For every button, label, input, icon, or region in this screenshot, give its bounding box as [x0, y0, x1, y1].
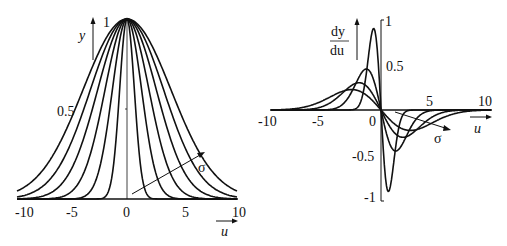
tick-y: -0.5 [352, 149, 374, 164]
y-axis-label: y [77, 28, 86, 43]
y-axis-label-denominator: du [330, 43, 344, 58]
tick-x: 10 [478, 94, 492, 109]
sigma-label: σ [434, 131, 442, 146]
tick-y-0.5: 0.5 [57, 104, 75, 119]
x-axis-label: u [474, 121, 481, 136]
tick-x: 10 [232, 205, 246, 220]
tick-x: 0 [369, 114, 376, 129]
tick-y: 0.5 [386, 59, 404, 74]
tick-y-1: 1 [103, 15, 110, 30]
tick-x: 5 [426, 94, 433, 109]
tick-y: -1 [364, 190, 376, 205]
arrow-head-icon [486, 115, 492, 120]
sigma-label: σ [198, 160, 206, 175]
tick-x: -10 [258, 114, 277, 129]
tick-y: 1 [385, 14, 392, 29]
tick-x: -5 [66, 205, 78, 220]
tick-x: -5 [312, 114, 324, 129]
arrow-head-icon [443, 125, 451, 131]
derivative-plot: dy du 1 0.5 -0.5 -1 -10 -5 0 5 10 u σ [258, 14, 492, 205]
arrow-head-icon [197, 152, 205, 158]
x-axis-label: u [221, 224, 228, 239]
arrow-head-icon [355, 18, 360, 25]
tick-x: 5 [182, 205, 189, 220]
arrow-head-icon [91, 17, 96, 24]
y-axis-label-numerator: dy [331, 24, 345, 39]
tick-x: -10 [15, 205, 34, 220]
gaussian-plot: y 1 0.5 σ -10 -5 0 5 10 u [15, 15, 246, 239]
figure: y 1 0.5 σ -10 -5 0 5 10 u dy du 1 0.5 -0… [0, 0, 507, 246]
tick-x: 0 [123, 205, 130, 220]
